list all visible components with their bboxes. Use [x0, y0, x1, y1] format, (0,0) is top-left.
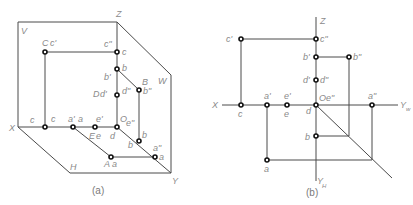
label-c-axis: c	[30, 115, 35, 125]
point-e	[93, 125, 97, 129]
label-z: Z	[115, 9, 122, 19]
figure-a-3d-projection: V Z W X H Y C c' c" c b' b B b" D d' d" …	[8, 9, 179, 196]
label-w-plane: W	[158, 76, 168, 86]
caption-b: (b)	[306, 187, 318, 198]
label-a-prime: a'	[68, 114, 75, 124]
label-e: e	[284, 109, 289, 119]
point-a-dprime	[370, 103, 374, 107]
label-bz: b	[122, 63, 127, 73]
label-b: b	[128, 140, 133, 150]
label-d-dprime: d"	[320, 75, 329, 85]
point-ay	[153, 155, 157, 159]
point-b-dprime	[347, 55, 351, 59]
label-b-prime: b'	[303, 52, 310, 62]
point-cx	[43, 125, 47, 129]
point-by	[137, 139, 141, 143]
figure-b-orthographic: Z X Y w Y H c' c" b' b" d' d" a' e' O e"…	[211, 16, 411, 198]
point-d-dprime	[314, 78, 318, 82]
label-e-prime: e'	[96, 114, 103, 124]
label-h-plane: H	[70, 162, 77, 172]
point-e-prime	[285, 103, 289, 107]
label-x: X	[211, 100, 219, 110]
point-origin	[314, 103, 318, 107]
point-c	[43, 50, 47, 54]
label-c-prime: c'	[226, 34, 233, 44]
label-c: c	[238, 109, 243, 119]
label-d: d	[110, 131, 116, 141]
label-C: C	[42, 38, 49, 48]
label-a: a	[264, 164, 269, 174]
point-b-3d	[137, 88, 141, 92]
label-c-dprime: c"	[104, 39, 113, 49]
point-c-prime	[239, 37, 243, 41]
label-cz: c	[122, 47, 127, 57]
point-origin	[115, 125, 119, 129]
label-e-dprime: e"	[126, 118, 135, 128]
label-ay: a	[159, 152, 164, 162]
label-b-dprime: b"	[353, 52, 362, 62]
point-b	[314, 134, 318, 138]
label-b-dprime: b"	[143, 86, 152, 96]
v-plane-outline	[18, 22, 117, 127]
label-ax: a	[78, 114, 83, 124]
label-cx: c	[51, 114, 56, 124]
point-d-prime	[115, 93, 119, 97]
label-b-prime: b'	[104, 72, 111, 82]
label-a-dprime: a"	[368, 91, 377, 101]
point-cz	[115, 50, 119, 54]
label-yh-sub: H	[322, 183, 327, 189]
label-E: E	[89, 131, 96, 141]
label-e-dprime: e"	[326, 93, 335, 103]
caption-a: (a)	[92, 185, 104, 196]
point-c	[239, 103, 243, 107]
label-d: d	[306, 106, 312, 116]
label-A: A	[103, 159, 110, 169]
label-O: O	[319, 93, 326, 103]
point-a	[265, 158, 269, 162]
label-yw-sub: w	[406, 106, 411, 112]
label-by: b	[142, 130, 147, 140]
label-d-prime: d'	[303, 75, 310, 85]
label-c-dprime: c"	[320, 34, 329, 44]
label-v-plane: V	[21, 26, 28, 36]
label-e-prime: e'	[284, 91, 291, 101]
label-z: Z	[319, 16, 326, 26]
label-x: X	[8, 123, 16, 133]
projection-diagram: V Z W X H Y C c' c" c b' b B b" D d' d" …	[0, 0, 413, 205]
point-ax	[71, 125, 75, 129]
label-D: D	[93, 89, 100, 99]
45-degree-line	[316, 105, 392, 178]
label-a-prime: a'	[264, 91, 271, 101]
label-y: Y	[172, 176, 179, 186]
point-b-prime	[314, 55, 318, 59]
label-e: e	[96, 131, 101, 141]
label-b: b	[305, 132, 310, 142]
label-d-dprime: d"	[122, 86, 131, 96]
label-c-prime: c'	[50, 38, 57, 48]
label-a: a	[112, 159, 117, 169]
label-d-prime: d'	[100, 89, 107, 99]
point-bz	[115, 67, 119, 71]
point-c-dprime	[314, 37, 318, 41]
point-a-prime	[265, 103, 269, 107]
